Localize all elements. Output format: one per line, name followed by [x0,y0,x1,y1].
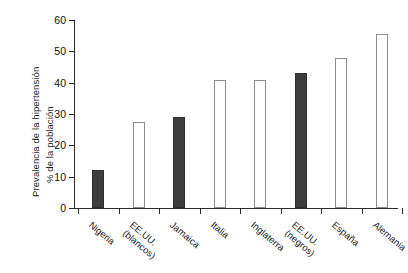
x-category-label-line-1: España [330,219,362,248]
y-tick-mark [69,83,74,84]
plot-area: 0102030405060 NigeriaEE.UU.(blancos)Jama… [74,20,398,208]
x-category-label: Nigeria [87,219,117,247]
y-axis-title-line-1: Prevalencia de la hipertensión [30,67,41,197]
x-category-label: EE.UU.(negros) [283,219,324,259]
x-category-label: España [330,219,362,248]
y-tick-mark [69,145,74,146]
bar [335,58,347,208]
x-category-label-line-1: Nigeria [87,219,117,247]
y-tick-label: 10 [54,171,66,183]
bar [133,122,145,208]
x-tick-mark [78,208,79,214]
bar [254,80,266,208]
y-tick-mark [69,51,74,52]
x-tick-mark [200,208,201,214]
x-tick-mark [159,208,160,214]
x-category-label-line-1: Inglaterra [249,219,287,253]
x-tick-mark [402,208,403,214]
y-axis-spine [74,20,75,208]
y-tick-label: 20 [54,139,66,151]
x-category-label-line-1: Italia [209,219,231,240]
y-tick-mark [69,208,74,209]
chart-figure: Prevalencia de la hipertensión % de la p… [0,0,408,273]
x-tick-mark [321,208,322,214]
y-tick-mark [69,20,74,21]
y-tick-label: 30 [54,108,66,120]
bar [92,170,104,208]
y-tick-label: 40 [54,77,66,89]
x-category-label: EE.UU.(blancos) [121,219,165,261]
x-tick-mark [240,208,241,214]
x-category-label: Jamaica [168,219,202,250]
x-tick-mark [281,208,282,214]
x-category-label: Inglaterra [249,219,287,253]
x-axis-baseline [74,208,398,209]
x-tick-mark [119,208,120,214]
bar [214,80,226,208]
y-axis-title: Prevalencia de la hipertensión % de la p… [0,0,52,215]
y-tick-label: 0 [60,202,66,214]
x-category-label: Alemania [371,219,408,253]
x-tick-mark [362,208,363,214]
y-tick-label: 50 [54,45,66,57]
y-tick-mark [69,114,74,115]
x-category-label: Italia [209,219,231,240]
bar [295,73,307,208]
y-tick-mark [69,177,74,178]
x-category-label-line-1: Jamaica [168,219,202,250]
x-category-label-line-1: Alemania [371,219,408,253]
bar [376,34,388,208]
y-tick-label: 60 [54,14,66,26]
bar [173,117,185,208]
